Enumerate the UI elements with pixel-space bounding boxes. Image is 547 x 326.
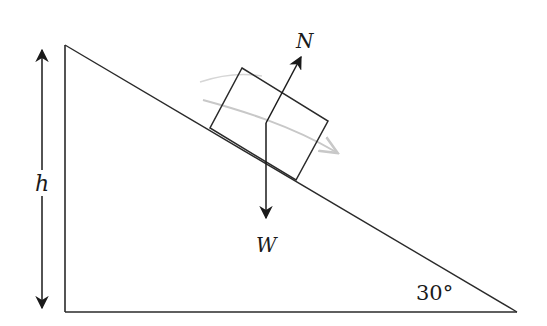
normal-force-arrow bbox=[266, 57, 301, 123]
normal-force-label: N bbox=[295, 29, 315, 53]
weight-label: W bbox=[256, 233, 278, 257]
angle-label: 30° bbox=[416, 281, 453, 305]
ramp-incline bbox=[65, 45, 517, 312]
ramp-triangle bbox=[65, 45, 517, 312]
height-label: h bbox=[35, 171, 49, 196]
block bbox=[210, 68, 328, 180]
inclined-plane-diagram: N W h 30° bbox=[0, 0, 547, 326]
